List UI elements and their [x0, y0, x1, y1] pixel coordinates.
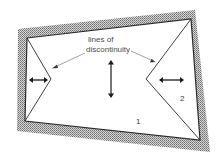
region-label-2: 2	[180, 94, 184, 103]
region-label-1: 1	[136, 117, 140, 126]
annotation-label-line1: lines of	[88, 35, 113, 44]
annotation-label-line2: discontinuity	[86, 45, 130, 54]
diagram-canvas	[0, 0, 219, 158]
